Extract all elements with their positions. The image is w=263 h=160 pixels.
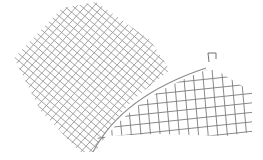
bracket-mark <box>208 53 216 62</box>
grid-line <box>90 131 260 149</box>
grid-line <box>0 0 52 159</box>
grid-line <box>90 140 260 158</box>
grid-line <box>250 60 257 140</box>
grid-line <box>90 121 260 139</box>
grid-line <box>159 0 263 159</box>
grid-line <box>49 0 239 159</box>
grid-line <box>252 0 262 159</box>
grid-line <box>173 60 180 140</box>
grid-line <box>0 0 74 159</box>
grid-line <box>0 0 26 159</box>
grid-line <box>202 60 209 140</box>
grid-line <box>0 0 1 159</box>
grid-line <box>230 60 237 140</box>
grid-line <box>125 0 263 159</box>
grid-line <box>259 60 262 140</box>
grid-line <box>218 0 262 159</box>
grid-line <box>108 0 262 159</box>
grid-line <box>0 0 40 159</box>
grid-line <box>134 0 263 159</box>
grid-line <box>0 0 77 159</box>
grid-line <box>261 0 262 159</box>
grid-line <box>244 0 262 159</box>
grid-line <box>163 60 170 140</box>
grid-line <box>227 0 263 159</box>
grid-line <box>219 0 263 159</box>
sketch-canvas <box>0 0 262 159</box>
grid-line <box>0 0 32 159</box>
grid-line <box>235 0 262 159</box>
grid-line <box>184 0 262 159</box>
grid-line <box>240 60 247 140</box>
grid-line <box>185 0 263 159</box>
grid-line <box>0 0 18 159</box>
grid-line <box>0 0 23 159</box>
grid-line <box>6 0 196 159</box>
grid-line <box>159 0 262 159</box>
grid-line <box>32 0 222 159</box>
grid-line <box>0 0 57 159</box>
grid-line <box>0 0 9 159</box>
grid-line <box>202 0 263 159</box>
grid-line <box>74 0 262 159</box>
grid-line <box>0 0 6 159</box>
grid-line <box>201 0 262 159</box>
grid-line <box>90 150 260 160</box>
grid-line <box>0 0 35 159</box>
grid-line <box>0 0 94 159</box>
grid-line <box>253 0 263 159</box>
grid-sketch <box>0 0 262 159</box>
grid-line <box>221 60 228 140</box>
grid-line <box>0 0 15 159</box>
grid-line <box>133 0 262 159</box>
grid-line <box>211 60 218 140</box>
grid-line <box>0 0 125 159</box>
rectilinear-grid <box>90 60 262 159</box>
grid-line <box>244 0 263 159</box>
grid-line <box>227 0 262 159</box>
grid-line <box>236 0 263 159</box>
